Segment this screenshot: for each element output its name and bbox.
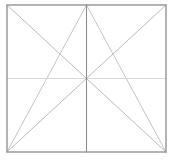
figure-container <box>0 0 173 162</box>
geometric-line-figure <box>0 0 173 162</box>
